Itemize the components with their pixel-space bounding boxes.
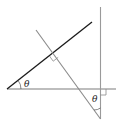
right-angle-marker-lower [101, 89, 107, 95]
angle-arc-left [18, 80, 21, 89]
geometry-diagram: θ θ [0, 0, 120, 127]
inclined-line [7, 22, 92, 89]
right-angle-marker-upper [50, 56, 59, 61]
theta-label-left: θ [24, 79, 30, 89]
theta-label-bottom: θ [92, 94, 98, 104]
perpendicular-transversal [36, 30, 101, 119]
angle-arc-bottom [94, 108, 101, 110]
